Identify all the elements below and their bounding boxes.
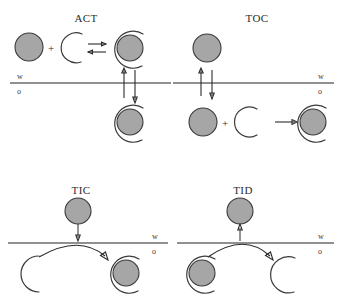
panel-toc: TOC w o +	[173, 12, 334, 142]
act-plus-symbol: +	[48, 42, 54, 54]
tid-phase-top-label: w	[318, 232, 324, 241]
tic-phase-top-label: w	[152, 232, 158, 241]
toc-organic-complex	[298, 105, 326, 142]
panel-tid: TID w o	[177, 184, 334, 293]
tic-interfacial-curve-arrow	[39, 245, 108, 260]
tid-interfacial-curve-arrow	[208, 244, 273, 260]
toc-phase-top-label: w	[318, 72, 324, 81]
tid-free-ligand-ring	[271, 257, 295, 293]
tid-aqueous-ion	[227, 198, 253, 224]
act-free-ion	[15, 33, 43, 61]
toc-reaction-arrow	[275, 120, 297, 125]
toc-aqueous-ion	[193, 34, 221, 62]
panel-tic: TIC w o	[8, 184, 168, 293]
mechanism-diagram: ACT + w o	[0, 0, 342, 298]
toc-plus-symbol: +	[222, 117, 228, 129]
toc-organic-ion	[189, 108, 217, 136]
act-transfer-arrows	[122, 68, 137, 103]
act-phase-top-label: w	[17, 72, 23, 81]
tic-organic-complex	[111, 256, 139, 293]
act-organic-complex	[115, 105, 143, 142]
act-aqueous-complex	[115, 31, 143, 68]
panel-toc-label: TOC	[245, 12, 268, 24]
panel-tid-label: TID	[233, 184, 253, 196]
act-free-ligand-ring	[61, 33, 82, 63]
panel-act-label: ACT	[74, 12, 97, 24]
toc-phase-bottom-label: o	[318, 87, 322, 96]
toc-free-ligand-ring	[235, 107, 257, 137]
tic-approach-arrow	[76, 224, 80, 241]
panel-tic-label: TIC	[72, 184, 91, 196]
act-phase-bottom-label: o	[17, 87, 21, 96]
tid-release-arrow	[238, 224, 242, 241]
act-equilibrium-arrows	[88, 42, 106, 54]
tic-aqueous-ion	[65, 198, 91, 224]
panel-act: ACT + w o	[10, 12, 171, 142]
tid-phase-bottom-label: o	[318, 247, 322, 256]
tic-free-ligand-ring	[21, 256, 39, 292]
tid-organic-complex	[187, 256, 215, 293]
tic-phase-bottom-label: o	[152, 247, 156, 256]
